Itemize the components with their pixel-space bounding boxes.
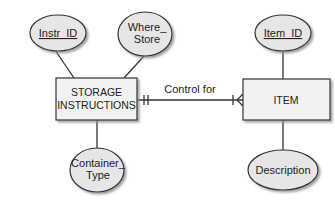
- connector-instr-id: [55, 50, 74, 78]
- entity-label-line1: STORAGE: [71, 86, 122, 98]
- relationship-control-for[interactable]: [137, 94, 243, 106]
- attribute-label-line1: Container_: [71, 157, 126, 169]
- attribute-label-line2: Store: [134, 33, 160, 45]
- er-diagram: Control for Instr_ID Where_ Store Contai…: [0, 0, 335, 201]
- relationship-label: Control for: [164, 83, 216, 95]
- attribute-label: Item_ID: [264, 27, 303, 39]
- attribute-label: Instr_ID: [39, 27, 78, 39]
- entity-label-line2: INSTRUCTIONS: [57, 99, 136, 111]
- connector-where-store: [124, 55, 145, 78]
- attribute-label: Description: [255, 164, 310, 176]
- crows-foot-lower: [237, 100, 243, 106]
- attribute-item-id[interactable]: Item_ID: [255, 15, 311, 51]
- crows-foot-upper: [237, 94, 243, 100]
- attribute-instr-id[interactable]: Instr_ID: [30, 15, 86, 51]
- attribute-label-line2: Type: [86, 169, 110, 181]
- entity-storage-instructions[interactable]: STORAGE INSTRUCTIONS: [56, 78, 137, 120]
- attribute-where-store[interactable]: Where_ Store: [118, 12, 172, 56]
- attribute-label-line1: Where_: [128, 21, 167, 33]
- attribute-container-type[interactable]: Container_ Type: [70, 148, 126, 192]
- entity-label: ITEM: [273, 94, 298, 106]
- attribute-description[interactable]: Description: [248, 150, 318, 190]
- entity-item[interactable]: ITEM: [243, 79, 330, 120]
